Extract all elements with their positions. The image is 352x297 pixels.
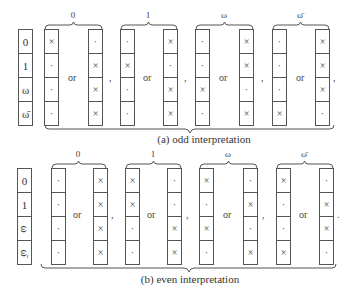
cell: × bbox=[94, 193, 107, 217]
right-option-column: · × × · bbox=[319, 168, 334, 265]
left-option-column: × · × · bbox=[199, 168, 214, 265]
left-option-column: × × · · bbox=[125, 168, 140, 265]
cell: × bbox=[94, 169, 107, 193]
cell: · bbox=[277, 217, 290, 241]
cell: × bbox=[277, 169, 290, 193]
cell: · bbox=[244, 169, 257, 193]
separator: , bbox=[111, 209, 114, 220]
rotated-omega-label: ω bbox=[19, 225, 31, 232]
cell: × bbox=[320, 217, 333, 241]
separator: . bbox=[337, 209, 340, 220]
row-label: 0 bbox=[18, 169, 31, 193]
row-label: ω̄ bbox=[18, 241, 31, 264]
separator: , bbox=[262, 209, 265, 220]
group-label: ω̄ bbox=[294, 149, 314, 159]
cell: · bbox=[244, 217, 257, 241]
cell: · bbox=[200, 241, 213, 264]
cell: × bbox=[126, 169, 139, 193]
left-option-column: · · · · bbox=[51, 168, 66, 265]
group-label: 0 bbox=[68, 149, 88, 159]
cell: · bbox=[168, 193, 181, 217]
cell: × bbox=[277, 241, 290, 264]
cell: · bbox=[126, 241, 139, 264]
cell: · bbox=[52, 241, 65, 264]
cell: · bbox=[277, 193, 290, 217]
row-label-column: 0 1 ω ω̄ bbox=[17, 168, 32, 265]
left-option-column: × · · × bbox=[276, 168, 291, 265]
group-label: ω bbox=[218, 149, 238, 159]
row-label: 1 bbox=[18, 193, 31, 217]
cell: × bbox=[200, 217, 213, 241]
cell: × bbox=[94, 241, 107, 264]
cell: · bbox=[52, 169, 65, 193]
cell: · bbox=[52, 217, 65, 241]
or-label: or bbox=[73, 209, 81, 220]
right-option-column: · × · × bbox=[243, 168, 258, 265]
cell: × bbox=[94, 217, 107, 241]
group-label: 1 bbox=[143, 149, 163, 159]
cell: · bbox=[320, 241, 333, 264]
cell: × bbox=[168, 217, 181, 241]
cell: · bbox=[52, 193, 65, 217]
cell: × bbox=[126, 193, 139, 217]
cell: × bbox=[168, 241, 181, 264]
row-label: ω bbox=[18, 217, 31, 241]
cell: × bbox=[200, 169, 213, 193]
cell: · bbox=[126, 217, 139, 241]
or-label: or bbox=[223, 209, 231, 220]
cell: · bbox=[320, 169, 333, 193]
caption: (b) even interpretation bbox=[14, 273, 352, 285]
panel-even-interpretation: 0 1 ω ω̄ 0 · · · · or × × × × , 1 × × · … bbox=[0, 0, 352, 297]
cell: · bbox=[168, 169, 181, 193]
cell: · bbox=[200, 193, 213, 217]
or-label: or bbox=[299, 209, 307, 220]
bottom-brace-icon bbox=[40, 264, 338, 273]
right-option-column: · · × × bbox=[167, 168, 182, 265]
rotated-omega-bar-label: ω̄ bbox=[19, 249, 31, 256]
cell: × bbox=[244, 241, 257, 264]
or-label: or bbox=[147, 209, 155, 220]
separator: , bbox=[186, 209, 189, 220]
cell: × bbox=[244, 193, 257, 217]
right-option-column: × × × × bbox=[93, 168, 108, 265]
cell: × bbox=[320, 193, 333, 217]
